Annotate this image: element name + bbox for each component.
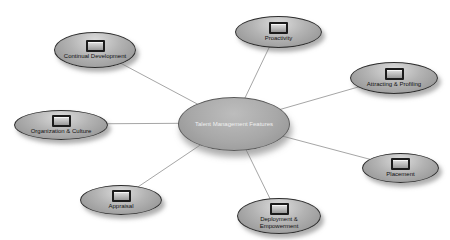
node-attracting-profiling: Attracting & Profiling — [350, 62, 438, 94]
node-label: Continual Development — [58, 53, 132, 60]
node-organization-culture: Organization & Culture — [14, 110, 108, 140]
node-deployment-empowerment: Deployment & Empowerment — [237, 198, 321, 234]
node-proactivity: Proactivity — [235, 16, 322, 48]
box-icon — [270, 203, 289, 215]
node-label: Attracting & Profiling — [361, 81, 427, 88]
hub-node-label: Talent Management Features — [189, 121, 279, 128]
node-label: Deployment & Empowerment — [247, 216, 311, 230]
talent-management-diagram: Talent Management Features Continual Dev… — [0, 0, 450, 240]
node-continual-development: Continual Development — [54, 32, 136, 68]
node-label: Organization & Culture — [25, 128, 98, 135]
box-icon — [385, 68, 404, 80]
box-icon — [391, 158, 410, 170]
box-icon — [269, 22, 288, 34]
node-label: Placement — [380, 171, 420, 178]
node-label: Appraisal — [102, 203, 139, 210]
node-placement: Placement — [362, 153, 439, 183]
hub-node-talent-management-features: Talent Management Features — [178, 97, 290, 151]
box-icon — [112, 190, 131, 202]
node-label: Proactivity — [259, 35, 299, 42]
box-icon — [86, 40, 105, 52]
box-icon — [52, 115, 71, 127]
node-appraisal: Appraisal — [80, 185, 162, 215]
